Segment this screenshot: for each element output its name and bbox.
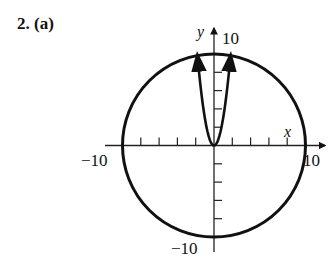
x-axis-label: x — [283, 123, 291, 140]
y-axis-label: y — [195, 23, 205, 41]
x-min-label: −10 — [81, 151, 108, 170]
x-max-label: 10 — [303, 151, 320, 170]
graph: x y 10 10 −10 −10 — [0, 0, 336, 258]
y-min-label: −10 — [171, 239, 198, 258]
y-max-label: 10 — [222, 29, 239, 48]
